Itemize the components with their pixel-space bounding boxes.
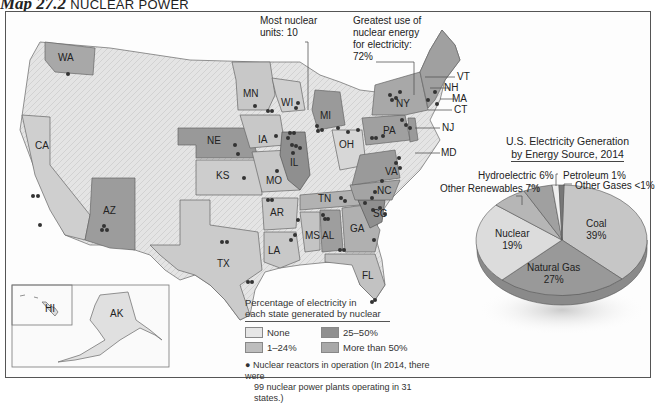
state-label-wa: WA [58, 52, 74, 63]
state-label-il: IL [290, 157, 298, 168]
state-label-fl: FL [362, 270, 374, 281]
legend-heading-line: Percentage of electricity in [245, 297, 390, 308]
pie-label-pct: 27% [527, 274, 580, 286]
legend-label-none: None [267, 327, 317, 338]
legend-swatch-more-than-50 [321, 342, 339, 353]
state-label-al: AL [322, 230, 334, 241]
callout-most-units: Most nuclear units: 10 [260, 15, 317, 39]
legend-swatch-none [245, 327, 263, 338]
legend-note: ● Nuclear reactors in operation (In 2014… [245, 360, 435, 404]
state-label-ny: NY [396, 98, 410, 109]
pie-label-text: Nuclear [495, 228, 529, 240]
state-label-wi: WI [281, 97, 293, 108]
callout-line: Most nuclear [260, 15, 317, 27]
state-label-nj: NJ [442, 122, 454, 133]
callout-line: nuclear energy [353, 27, 421, 39]
legend-note-line: 99 nuclear power plants operating in 31 … [245, 382, 435, 404]
state-label-ak: AK [110, 308, 123, 319]
state-label-la: LA [268, 245, 280, 256]
legend-note-line: Nuclear reactors in operation (In 2014, … [245, 360, 430, 381]
state-label-mn: MN [243, 88, 259, 99]
legend-label-1-24: 1–24% [267, 342, 317, 353]
state-label-az: AZ [103, 205, 116, 216]
state-label-va: VA [385, 166, 398, 177]
legend-heading-line: each state generated by nuclear [245, 308, 390, 319]
state-label-vt: VT [457, 71, 470, 82]
pie-label-coal: Coal 39% [586, 218, 607, 242]
callout-line: 72% [353, 51, 421, 63]
state-label-ms: MS [305, 230, 320, 241]
pie-title-line: by Energy Source, 2014 [511, 148, 624, 162]
pie-label-nuclear: Nuclear 19% [495, 228, 529, 252]
state-label-ia: IA [258, 134, 267, 145]
state-label-ma: MA [452, 93, 467, 104]
pie-chart-title: U.S. Electricity Generation by Energy So… [500, 135, 635, 162]
state-label-pa: PA [383, 125, 396, 136]
legend-swatch-25-50 [321, 327, 339, 338]
state-label-hi: HI [45, 303, 55, 314]
map-legend: Percentage of electricity in each state … [245, 297, 435, 404]
state-label-tn: TN [318, 193, 331, 204]
pie-label-text: Natural Gas [527, 262, 580, 274]
pie-label-natural-gas: Natural Gas 27% [527, 262, 580, 286]
legend-label-more-than-50: More than 50% [343, 342, 423, 353]
legend-swatch-1-24 [245, 342, 263, 353]
state-label-ar: AR [270, 207, 284, 218]
pie-label-hydro: Hydroelectric 6% [478, 170, 554, 182]
state-label-md: MD [441, 147, 457, 158]
callout-greatest-use: Greatest use of nuclear energy for elect… [353, 15, 421, 63]
state-label-mi: MI [320, 110, 331, 121]
reactor-dot-icon: ● [245, 360, 250, 370]
callout-line: Greatest use of [353, 15, 421, 27]
pie-label-pct: 19% [495, 240, 529, 252]
state-label-ne: NE [207, 135, 221, 146]
legend-label-25-50: 25–50% [343, 327, 423, 338]
pie-title-line: U.S. Electricity Generation [500, 135, 635, 148]
callout-line: units: 10 [260, 27, 317, 39]
pie-label-other-gases: Other Gases <1% [575, 180, 655, 192]
state-label-mo: MO [266, 175, 282, 186]
state-label-ks: KS [216, 170, 229, 181]
state-label-ct: CT [454, 104, 467, 115]
state-label-sc: SC [373, 208, 387, 219]
state-label-nh: NH [444, 82, 458, 93]
pie-label-pct: 39% [586, 230, 607, 242]
state-label-ca: CA [35, 140, 49, 151]
legend-heading: Percentage of electricity in each state … [245, 297, 390, 322]
state-label-tx: TX [217, 258, 230, 269]
state-label-oh: OH [339, 139, 354, 150]
state-label-ga: GA [350, 223, 364, 234]
state-label-nc: NC [377, 185, 391, 196]
callout-line: for electricity: [353, 39, 421, 51]
pie-label-text: Coal [586, 218, 607, 230]
pie-label-renewables: Other Renewables 7% [440, 183, 540, 195]
